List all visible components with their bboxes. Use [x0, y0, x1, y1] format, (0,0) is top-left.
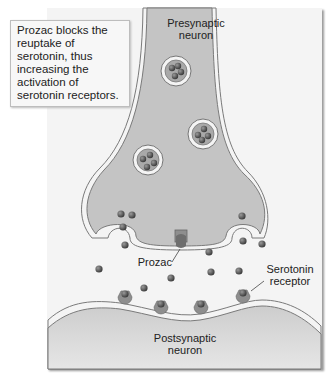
receptor-label-line1: Serotonin — [258, 263, 322, 275]
serotonin-receptor-label: Serotonin receptor — [258, 263, 322, 287]
presynaptic-label-line1: Presynaptic — [156, 17, 236, 29]
serotonin-receptor — [154, 300, 168, 314]
postsynaptic-label-line1: Postsynaptic — [140, 332, 230, 344]
presynaptic-label-line2: neuron — [156, 29, 236, 41]
synaptic-vesicle — [188, 119, 218, 149]
explanation-callout: Prozac blocks the reuptake of serotonin,… — [10, 20, 130, 107]
receptor-label-line2: receptor — [258, 275, 322, 287]
serotonin-receptor — [236, 289, 250, 303]
synaptic-vesicle — [133, 145, 163, 175]
postsynaptic-label: Postsynaptic neuron — [140, 332, 230, 356]
postsynaptic-label-line2: neuron — [140, 344, 230, 356]
prozac-label-text: Prozac — [138, 256, 172, 268]
serotonin-receptor — [194, 300, 208, 314]
serotonin-receptor — [118, 290, 132, 304]
prozac-label: Prozac — [128, 256, 172, 268]
callout-text: Prozac blocks the reuptake of serotonin,… — [17, 24, 119, 101]
synaptic-vesicle — [161, 56, 191, 86]
presynaptic-label: Presynaptic neuron — [156, 17, 236, 41]
